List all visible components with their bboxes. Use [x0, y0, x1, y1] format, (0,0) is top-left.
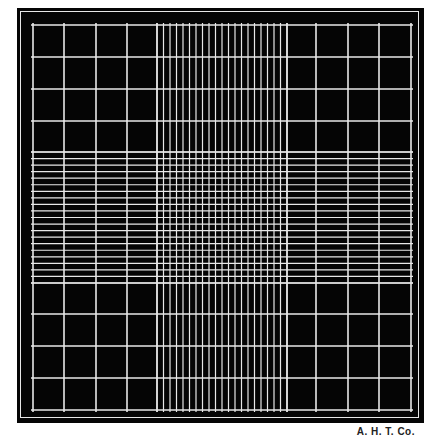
counting-grid: [0, 0, 433, 445]
maker-caption: A. H. T. Co.: [357, 426, 415, 437]
